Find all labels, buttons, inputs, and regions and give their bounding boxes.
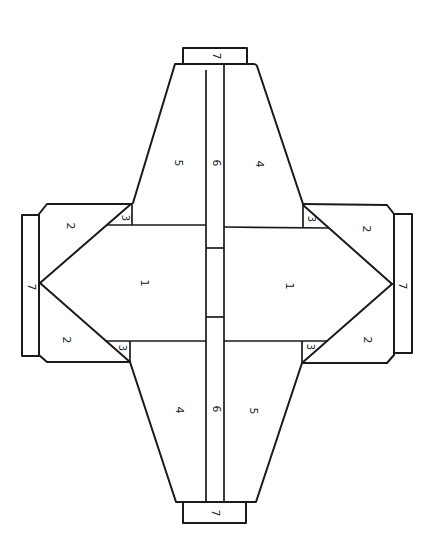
- label-top-right-panel: 4: [253, 161, 266, 168]
- label-right-lower-flap: 2: [361, 337, 374, 344]
- label-left-tab: 7: [25, 284, 38, 291]
- label-right-upper-flap: 2: [360, 226, 373, 233]
- label-left-upper-flap: 2: [64, 223, 77, 230]
- label-right-center: 1: [283, 283, 296, 290]
- top-trapezoid: [133, 64, 303, 248]
- label-top-strip: 6: [210, 160, 223, 167]
- label-right-tab: 7: [396, 283, 409, 290]
- label-left-upper-triangle: 3: [120, 215, 131, 221]
- label-left-lower-triangle: 3: [117, 345, 128, 351]
- pattern-diagram: 7 5 6 4 2 2 3 3 7 1 1 3 3 2 2 7 4 6 5 7: [0, 0, 425, 551]
- label-left-center: 1: [138, 280, 151, 287]
- left-lower-diagonal: [40, 283, 130, 362]
- pattern-svg: 7 5 6 4 2 2 3 3 7 1 1 3 3 2 2 7 4 6 5 7: [0, 0, 425, 551]
- label-right-lower-triangle: 3: [305, 344, 316, 350]
- label-top-tab: 7: [210, 53, 223, 60]
- label-bottom-strip: 6: [210, 406, 223, 413]
- label-right-upper-triangle: 3: [306, 216, 317, 222]
- right-lower-diagonal: [302, 284, 392, 363]
- label-top-left-panel: 5: [172, 160, 185, 167]
- left-upper-diagonal: [40, 204, 131, 283]
- label-bottom-tab: 7: [209, 510, 222, 517]
- label-left-lower-flap: 2: [60, 337, 73, 344]
- label-bottom-right-panel: 5: [247, 408, 260, 415]
- label-bottom-left-panel: 4: [173, 407, 186, 414]
